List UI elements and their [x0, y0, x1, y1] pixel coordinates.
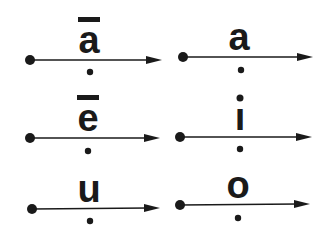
- dot-below-icon: [237, 146, 243, 152]
- arrowhead-icon: [294, 200, 310, 208]
- dot-below-icon: [238, 67, 244, 73]
- dot-above-icon: [237, 95, 244, 102]
- vowel-arrow-item: o: [175, 164, 310, 221]
- vowel-arrow-item: a: [25, 17, 162, 75]
- dot-below-icon: [87, 218, 93, 224]
- dot-below-icon: [235, 215, 241, 221]
- arrowhead-icon: [144, 204, 160, 212]
- vowel-letter: u: [77, 168, 100, 210]
- vowel-letter: ı: [235, 96, 246, 138]
- macron-mark: [78, 17, 100, 22]
- dot-below-icon: [87, 69, 93, 75]
- vowel-letter: a: [228, 16, 250, 58]
- arrowhead-icon: [296, 133, 312, 141]
- vowel-letter: o: [226, 164, 249, 206]
- vowel-letter: e: [77, 97, 98, 139]
- arrowhead-icon: [144, 134, 160, 142]
- vowel-arrow-item: u: [27, 168, 160, 224]
- dot-below-icon: [85, 148, 91, 154]
- arrowhead-icon: [146, 56, 162, 64]
- vowel-letter: a: [78, 19, 100, 61]
- vowel-arrow-item: a: [178, 16, 313, 73]
- vowel-arrow-item: e: [25, 95, 160, 154]
- vowel-arrow-diagram: aaeıuo: [0, 0, 330, 243]
- vowel-arrow-item: ı: [175, 95, 312, 153]
- macron-mark: [77, 95, 99, 100]
- arrowhead-icon: [297, 53, 313, 61]
